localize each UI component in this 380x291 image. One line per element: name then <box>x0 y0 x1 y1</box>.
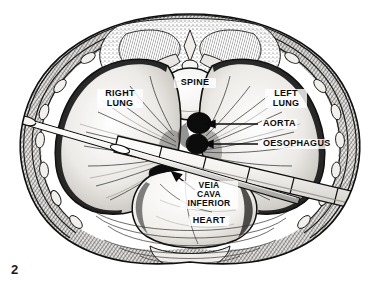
figure-container: SPINE RIGHT LUNG LEFT LUNG AORTA OESOPHA… <box>0 0 380 291</box>
label-oesophagus: OESOPHAGUS <box>262 139 332 149</box>
label-aorta: AORTA <box>262 119 297 129</box>
label-vena-cava-inferior: VEIA CAVA INFERIOR <box>180 181 238 209</box>
label-left-lung: LEFT LUNG <box>265 89 307 108</box>
label-right-lung: RIGHT LUNG <box>97 89 143 108</box>
label-spine: SPINE <box>174 78 216 88</box>
figure-number: 2 <box>11 262 18 277</box>
label-heart: HEART <box>189 216 229 226</box>
